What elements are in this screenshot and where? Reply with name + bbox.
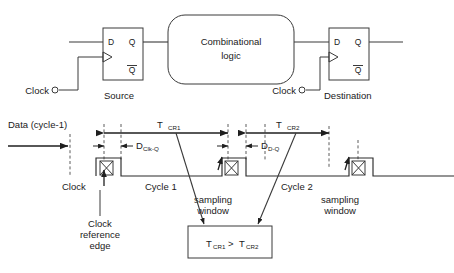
comb-logic-line2: logic xyxy=(221,50,241,61)
source-ff-pin-qbar: Q xyxy=(129,65,136,75)
cycle1-label: Cycle 1 xyxy=(145,181,177,192)
comb-logic-line1: Combinational xyxy=(201,36,262,47)
clock-ref-edge-line3: edge xyxy=(89,240,110,251)
result-box-right: T xyxy=(239,238,245,249)
result-box-left-sub: CR1 xyxy=(213,243,226,250)
tcr1-leader-line xyxy=(176,133,204,224)
source-ff-pin-d: D xyxy=(108,37,114,47)
source-clock-label: Clock xyxy=(25,85,49,96)
data-cycle1-label: Data (cycle-1) xyxy=(8,119,67,130)
dest-flipflop-box xyxy=(329,28,369,80)
source-flipflop-box xyxy=(103,28,143,80)
clock-ref-edge-line2: reference xyxy=(80,229,120,240)
dest-ff-pin-q: Q xyxy=(355,37,362,47)
sampling-window-2-line2: window xyxy=(323,205,356,216)
dest-ff-pin-qbar: Q xyxy=(355,65,362,75)
result-box-right-sub: CR2 xyxy=(246,243,259,250)
tcr1-label: T xyxy=(157,119,163,130)
source-ff-pin-q: Q xyxy=(129,37,136,47)
dest-clock-wire xyxy=(306,57,329,90)
sampling-window-2-line1: sampling xyxy=(321,194,359,205)
dest-ff-name: Destination xyxy=(324,90,372,101)
sampling-window-1-pointer xyxy=(218,157,222,170)
tcr2-label-sub: CR2 xyxy=(287,124,300,131)
ddq-label: D xyxy=(261,140,268,151)
source-clock-terminal-circle xyxy=(52,87,58,93)
result-box-left: T xyxy=(206,238,212,249)
dclkq-label-sub: Clk-Q xyxy=(143,145,159,152)
source-ff-name: Source xyxy=(104,90,134,101)
source-clock-wire xyxy=(59,57,103,90)
sampling-window-2-pointer xyxy=(345,157,349,170)
result-box-operator: > xyxy=(228,238,234,249)
tcr1-label-sub: CR1 xyxy=(168,124,181,131)
clock-ref-edge-line1: Clock xyxy=(88,218,112,229)
dest-clock-label: Clock xyxy=(272,85,296,96)
clock-waveform-label: Clock xyxy=(62,181,86,192)
dest-clock-terminal-circle xyxy=(299,87,305,93)
sampling-window-1-line1: sampling xyxy=(194,194,232,205)
tcr2-label: T xyxy=(276,119,282,130)
figure-canvas: D Q Q Clock Source Combinational logic D… xyxy=(0,0,454,273)
timing-diagram-svg: D Q Q Clock Source Combinational logic D… xyxy=(0,0,454,273)
cycle2-label: Cycle 2 xyxy=(281,181,313,192)
clock-waveform xyxy=(96,158,454,176)
dest-ff-pin-d: D xyxy=(334,37,340,47)
ddq-label-sub: D-Q xyxy=(268,145,280,152)
dclkq-label: D xyxy=(136,140,143,151)
